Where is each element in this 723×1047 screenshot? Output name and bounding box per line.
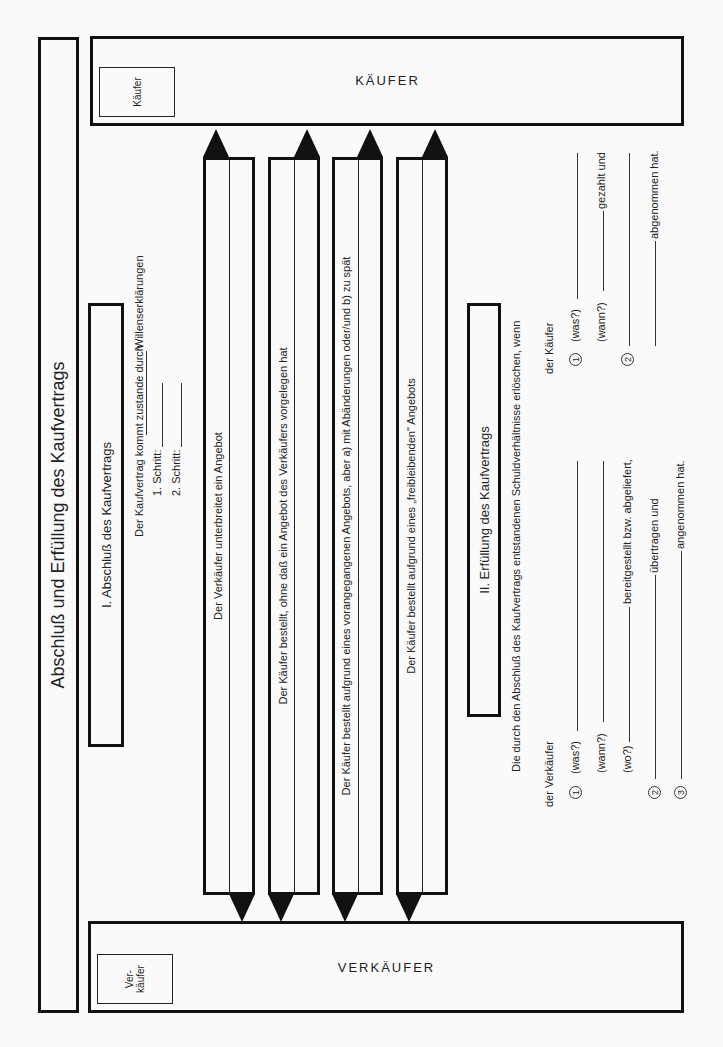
arrowhead-to-buyer-3 xyxy=(357,129,383,157)
arrow-bar-divider xyxy=(229,160,230,892)
step1-label: 1. Schritt: xyxy=(151,450,164,496)
seller-item-3-suffix: angenommen hat. xyxy=(674,460,687,549)
page-title: Abschluß und Erfüllung des Kaufvertrags xyxy=(48,361,69,688)
buyer-item-wann-suffix: gezahlt und xyxy=(595,152,608,209)
step1-blank[interactable] xyxy=(162,383,163,447)
buyer-was-blank[interactable] xyxy=(577,153,578,299)
seller-was-blank[interactable] xyxy=(577,461,578,731)
section2-heading: II. Erfüllung des Kaufvertrags xyxy=(477,426,492,594)
buyer-band: Käufer KÄUFER xyxy=(90,36,684,126)
buyer-item-wann-prompt: (wann?) xyxy=(595,302,608,342)
section1-intro-prefix: Der Kaufvertrag kommt zustande durch xyxy=(133,345,146,537)
arrowhead-to-buyer-1 xyxy=(203,129,229,157)
arrow-bar-1: Der Verkäufer unterbreitet ein Angebot xyxy=(203,157,255,895)
buyer-item-1-prompt: (was?) xyxy=(569,309,582,342)
willenserklaerungen-blank[interactable] xyxy=(146,351,147,435)
seller-item-wann-prompt: (wann?) xyxy=(595,733,608,773)
buyer-wann-blank[interactable] xyxy=(603,211,604,291)
seller-item-1-prompt: (was?) xyxy=(569,741,582,774)
arrowhead-to-seller-1 xyxy=(229,894,255,922)
arrow-bar-4: Der Käufer bestellt aufgrund eines „frei… xyxy=(396,157,448,895)
arrow-text-1: Der Verkäufer unterbreitet ein Angebot xyxy=(206,160,229,892)
arrowhead-to-buyer-4 xyxy=(422,129,448,157)
arrow-bar-3: Der Käufer bestellt aufgrund eines voran… xyxy=(332,157,383,895)
buyer-item-abgenommen-suffix: abgenommen hat. xyxy=(648,150,661,239)
seller-wann-blank[interactable] xyxy=(603,461,604,722)
section1-heading: I. Abschluß des Kaufvertrags xyxy=(99,442,114,608)
worksheet-canvas: Abschluß und Erfüllung des Kaufvertrags … xyxy=(0,0,723,1047)
arrow-bar-divider xyxy=(422,160,423,892)
arrow-text-3: Der Käufer bestellt aufgrund eines voran… xyxy=(335,160,358,892)
seller-band-label: VERKÄUFER xyxy=(337,960,434,975)
buyer-band-label: KÄUFER xyxy=(355,74,420,89)
seller-band-label-wrap: VERKÄUFER xyxy=(91,924,681,1010)
buyer-abgenommen-blank[interactable] xyxy=(655,241,656,346)
arrow-bar-divider xyxy=(294,160,295,892)
section2-intro: Die durch den Abschluß des Kaufvertrags … xyxy=(510,321,523,772)
arrow-bar-2: Der Käufer bestellt, ohne daß ein Angebo… xyxy=(268,157,320,895)
seller-item-wo-suffix: bereitgestellt bzw. abgeliefert, xyxy=(621,459,634,604)
arrow-text-4: Der Käufer bestellt aufgrund eines „frei… xyxy=(399,160,422,892)
seller-item-wo-prompt: (wo?) xyxy=(621,745,634,773)
buyer-obligations-label: der Käufer xyxy=(543,323,556,374)
title-bar: Abschluß und Erfüllung des Kaufvertrags xyxy=(38,37,79,1013)
arrowhead-to-buyer-2 xyxy=(294,129,320,157)
arrow-bar-divider xyxy=(358,160,359,892)
buyer-item-2-number: 2 xyxy=(621,353,634,366)
buyer-item-1-number: 1 xyxy=(569,353,582,366)
arrowhead-to-seller-2 xyxy=(268,894,294,922)
seller-wo-blank[interactable] xyxy=(629,607,630,742)
section2-heading-box: II. Erfüllung des Kaufvertrags xyxy=(467,303,501,717)
seller-item-2-suffix: übertragen und xyxy=(648,498,661,573)
seller-item-1-number: 1 xyxy=(569,786,582,799)
seller-band: Ver- käufer VERKÄUFER xyxy=(88,921,684,1013)
seller-item-3-number: 3 xyxy=(674,786,687,799)
buyer-item-2-blank[interactable] xyxy=(629,153,630,346)
seller-item-2-blank[interactable] xyxy=(655,575,656,779)
section1-intro-suffix: Willenserklärungen xyxy=(133,255,146,349)
seller-item-2-number: 2 xyxy=(648,786,661,799)
arrowhead-to-seller-3 xyxy=(332,894,358,922)
seller-item-3-blank[interactable] xyxy=(681,551,682,779)
buyer-band-label-wrap: KÄUFER xyxy=(93,39,681,123)
section1-heading-box: I. Abschluß des Kaufvertrags xyxy=(88,303,124,747)
seller-obligations-label: der Verkäufer xyxy=(543,741,556,807)
arrow-text-2: Der Käufer bestellt, ohne daß ein Angebo… xyxy=(271,160,294,892)
arrowhead-to-seller-4 xyxy=(396,894,422,922)
step2-label: 2. Schritt: xyxy=(170,450,183,496)
step2-blank[interactable] xyxy=(181,383,182,447)
